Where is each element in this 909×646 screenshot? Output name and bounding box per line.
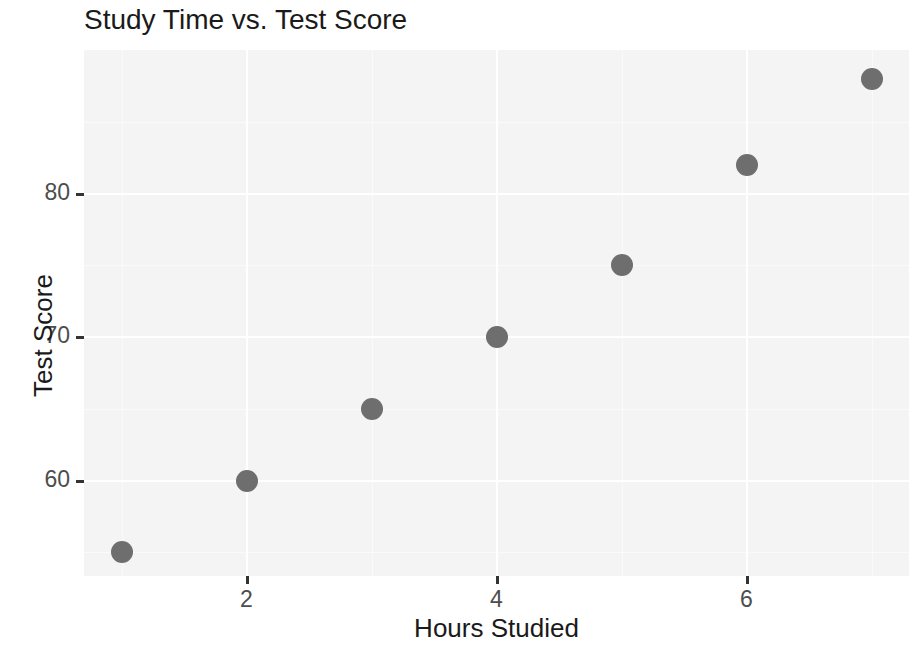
gridline-major-vertical [246, 50, 248, 576]
gridline-minor-vertical [122, 50, 123, 576]
y-axis-title: Test Score [28, 136, 59, 536]
data-point [861, 68, 883, 90]
data-point [611, 254, 633, 276]
y-axis-tick-mark [76, 193, 84, 196]
data-point [236, 470, 258, 492]
x-axis-tick-mark [246, 576, 249, 584]
data-point [736, 154, 758, 176]
x-axis-tick-label: 6 [717, 586, 777, 613]
data-point [486, 326, 508, 348]
gridline-minor-vertical [622, 50, 623, 576]
gridline-major-vertical [496, 50, 498, 576]
data-point [361, 398, 383, 420]
x-axis-tick-mark [746, 576, 749, 584]
x-axis-tick-label: 4 [467, 586, 527, 613]
chart-title: Study Time vs. Test Score [84, 4, 407, 36]
gridline-minor-vertical [872, 50, 873, 576]
y-axis-tick-mark [76, 480, 84, 483]
y-axis-tick-mark [76, 336, 84, 339]
plot-panel [84, 50, 909, 576]
gridline-minor-vertical [372, 50, 373, 576]
x-axis-tick-label: 2 [217, 586, 277, 613]
gridline-major-vertical [746, 50, 748, 576]
x-axis-tick-mark [496, 576, 499, 584]
x-axis-title: Hours Studied [84, 613, 909, 644]
data-point [111, 541, 133, 563]
scatter-plot-figure: Study Time vs. Test Score 607080 246 Hou… [0, 0, 909, 646]
